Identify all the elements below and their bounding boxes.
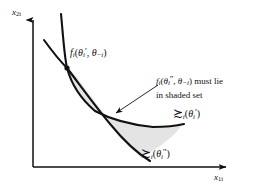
annotation-line-2: in shaded set xyxy=(156,89,256,101)
preference-relation-icon: ≿ xyxy=(141,146,151,160)
x-axis-label: x1i xyxy=(214,172,223,183)
allocation-point-label: fi(θi′, θ−i) xyxy=(70,46,107,60)
lower-curve-label: ≿i(θi″) xyxy=(141,147,170,162)
curve-upper-preference xyxy=(61,14,184,127)
preference-relation-icon: ≿ xyxy=(173,106,183,120)
upper-curve-close-paren: ) xyxy=(197,108,200,119)
lower-curve-close-paren: ) xyxy=(166,148,169,159)
annotation-arrow xyxy=(116,85,158,113)
x-axis-label-subscript: 1i xyxy=(218,175,223,182)
allocation-close-paren: ) xyxy=(103,47,106,58)
intersection-point-marker xyxy=(64,65,69,70)
y-axis-label-subscript: 2i xyxy=(16,10,21,17)
annotation-tail-text: must lie xyxy=(192,76,223,86)
annotation-line-1: fi(θi″, θ−i) must lie xyxy=(156,73,256,89)
y-axis-label: x2i xyxy=(12,7,21,18)
annotation-text: fi(θi″, θ−i) must lie in shaded set xyxy=(156,73,256,101)
upper-curve-label: ≿i(θi′) xyxy=(173,107,200,122)
figure-container: x2i x1i fi(θi′, θ−i) ≿i(θi′) ≿i(θi″) fi(… xyxy=(0,0,258,191)
annotation-theta2-subscript: −i xyxy=(182,79,189,87)
